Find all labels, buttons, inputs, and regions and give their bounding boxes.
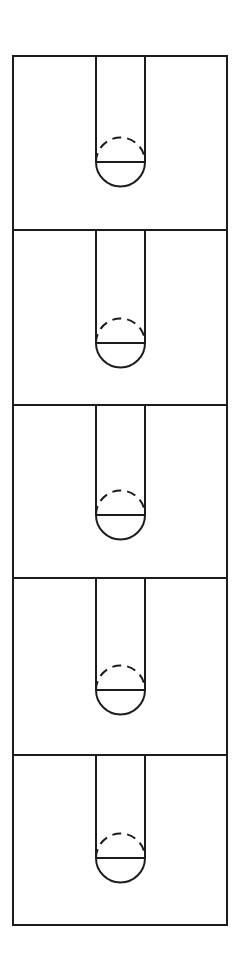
panel-5 xyxy=(96,755,145,883)
drawing-canvas xyxy=(0,0,240,971)
panel-1 xyxy=(96,56,145,187)
hidden-upper-arc xyxy=(96,138,145,163)
solid-lower-arc xyxy=(96,858,145,883)
solid-lower-arc xyxy=(96,690,145,715)
hidden-upper-arc xyxy=(96,319,145,344)
panel-dividers xyxy=(13,230,227,755)
panel-4 xyxy=(96,578,145,715)
panel-3 xyxy=(96,405,145,540)
solid-lower-arc xyxy=(96,343,145,368)
solid-lower-arc xyxy=(96,515,145,540)
hidden-upper-arc xyxy=(96,666,145,691)
hidden-upper-arc xyxy=(96,834,145,859)
hidden-upper-arc xyxy=(96,491,145,516)
panel-2 xyxy=(96,230,145,368)
solid-lower-arc xyxy=(96,162,145,187)
panel-collection xyxy=(96,56,145,883)
technical-drawing-root xyxy=(0,0,240,971)
